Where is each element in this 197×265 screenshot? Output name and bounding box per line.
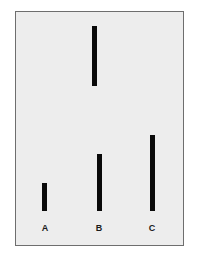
label-b: B xyxy=(89,223,109,233)
comparison-line-c xyxy=(150,135,155,211)
label-a: A xyxy=(35,223,55,233)
comparison-line-b xyxy=(97,154,102,211)
label-c: C xyxy=(142,223,162,233)
comparison-line-a xyxy=(42,183,47,211)
stimulus-card: A B C xyxy=(15,11,184,246)
standard-line xyxy=(92,26,97,86)
